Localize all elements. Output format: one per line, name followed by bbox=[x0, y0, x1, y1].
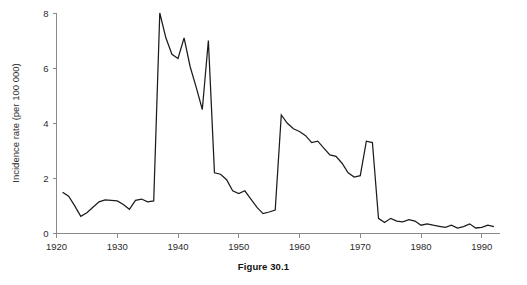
y-tick-label: 0 bbox=[43, 228, 48, 239]
y-tick-label: 2 bbox=[43, 173, 48, 184]
x-tick-label: 1960 bbox=[289, 241, 310, 252]
x-tick-label: 1920 bbox=[46, 241, 67, 252]
figure-caption: Figure 30.1 bbox=[0, 261, 527, 272]
chart-axes bbox=[57, 13, 501, 234]
x-tick-label: 1930 bbox=[107, 241, 128, 252]
incidence-rate-line-chart: 02468 19201930194019501960197019801990 I… bbox=[0, 0, 527, 285]
y-tick-label: 6 bbox=[43, 63, 48, 74]
x-tick-label: 1990 bbox=[471, 241, 492, 252]
x-axis-ticks: 19201930194019501960197019801990 bbox=[46, 234, 492, 252]
x-tick-label: 1970 bbox=[350, 241, 371, 252]
y-tick-label: 8 bbox=[43, 8, 48, 19]
series-line-incidence-rate bbox=[63, 13, 494, 228]
x-tick-label: 1980 bbox=[410, 241, 431, 252]
x-tick-label: 1950 bbox=[228, 241, 249, 252]
y-axis-title-label: Incidence rate (per 100 000) bbox=[10, 63, 21, 182]
figure-container: 02468 19201930194019501960197019801990 I… bbox=[0, 0, 527, 285]
chart-series-group bbox=[63, 13, 494, 228]
y-tick-label: 4 bbox=[43, 118, 48, 129]
y-axis-ticks: 02468 bbox=[43, 8, 56, 240]
x-tick-label: 1940 bbox=[167, 241, 188, 252]
y-axis-title: Incidence rate (per 100 000) bbox=[10, 63, 21, 182]
